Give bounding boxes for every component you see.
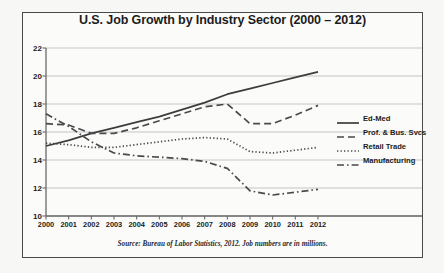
legend-line-swatch bbox=[337, 128, 359, 138]
series-line-manufacturing bbox=[46, 114, 318, 195]
y-tick-label: 22 bbox=[20, 44, 42, 53]
y-tick-label: 20 bbox=[20, 72, 42, 81]
legend-label: Manufacturing bbox=[363, 156, 415, 165]
legend-line-swatch bbox=[337, 156, 359, 166]
series-line-prof-bus-svcs bbox=[46, 104, 318, 133]
y-tick-label: 14 bbox=[20, 156, 42, 165]
chart-figure: U.S. Job Growth by Industry Sector (2000… bbox=[0, 0, 444, 273]
x-tick-label: 2012 bbox=[303, 220, 333, 229]
legend-label: Retail Trade bbox=[363, 142, 406, 151]
chart-legend: Ed-MedProf. & Bus. SvcsRetail TradeManuf… bbox=[337, 112, 423, 168]
legend-line-swatch bbox=[337, 142, 359, 152]
y-tick-label: 16 bbox=[20, 128, 42, 137]
y-tick-label: 12 bbox=[20, 184, 42, 193]
legend-item-prof-bus-svcs[interactable]: Prof. & Bus. Svcs bbox=[337, 126, 423, 139]
y-tick-label: 18 bbox=[20, 100, 42, 109]
legend-label: Prof. & Bus. Svcs bbox=[363, 128, 426, 137]
data-series-group bbox=[46, 72, 318, 195]
legend-line-swatch bbox=[337, 114, 359, 124]
source-note: Source: Bureau of Labor Statistics, 2012… bbox=[22, 240, 423, 248]
legend-item-ed-med[interactable]: Ed-Med bbox=[337, 112, 423, 125]
series-line-retail-trade bbox=[46, 138, 318, 153]
legend-label: Ed-Med bbox=[363, 114, 390, 123]
series-line-ed-med bbox=[46, 72, 318, 146]
legend-item-retail-trade[interactable]: Retail Trade bbox=[337, 140, 423, 153]
legend-item-manufacturing[interactable]: Manufacturing bbox=[337, 154, 423, 167]
